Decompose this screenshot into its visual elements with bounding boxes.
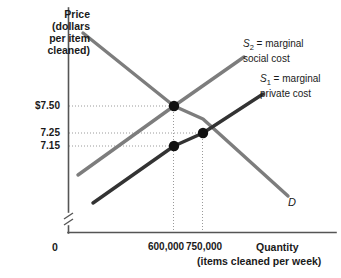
y-tick-label-725: 7.25 <box>6 127 60 139</box>
marker-market-equilibrium <box>198 128 208 138</box>
curve-label-s1-line2: private cost <box>260 88 311 99</box>
x-tick-label-600000: 600,000 <box>148 241 184 253</box>
curve-label-s2: S2 = marginalsocial cost <box>243 38 304 64</box>
y-axis-title: Price(dollarsper itemcleaned) <box>28 8 90 56</box>
y-tick-label-750: $7.50 <box>6 100 60 112</box>
y-axis-break-icon <box>64 213 73 225</box>
x-tick-label-750000: 750,000 <box>186 241 222 253</box>
curve-label-demand: D <box>288 196 296 209</box>
y-axis-title-line-1: Price <box>64 8 90 20</box>
curve-label-s2-line1: = marginal <box>254 38 304 49</box>
economics-externality-chart: Price(dollarsper itemcleaned) $7.50 7.25… <box>0 0 341 278</box>
x-axis-subtitle: (items cleaned per week) <box>197 255 321 267</box>
y-tick-label-715: 7.15 <box>6 140 60 152</box>
marker-social-optimum <box>169 101 179 111</box>
x-axis-title: Quantity <box>256 241 299 253</box>
horizontal-guides <box>69 106 203 146</box>
y-axis-title-line-2: (dollars <box>52 20 90 32</box>
curve-label-s2-symbol: S <box>243 38 250 49</box>
curve-label-s1-line1: = marginal <box>271 73 321 84</box>
marker-private-cost-at-optimum <box>169 141 179 151</box>
curve-label-s1-symbol: S <box>260 73 267 84</box>
curve-label-s1: S1 = marginalprivate cost <box>260 73 321 99</box>
y-axis-title-line-4: cleaned) <box>47 44 90 56</box>
y-axis-title-line-3: per item <box>49 32 90 44</box>
marker-dots <box>169 101 208 151</box>
curve-label-s2-line2: social cost <box>243 53 290 64</box>
marginal-social-cost-curve <box>78 57 244 175</box>
vertical-guides <box>174 106 203 232</box>
origin-label: 0 <box>52 241 58 253</box>
